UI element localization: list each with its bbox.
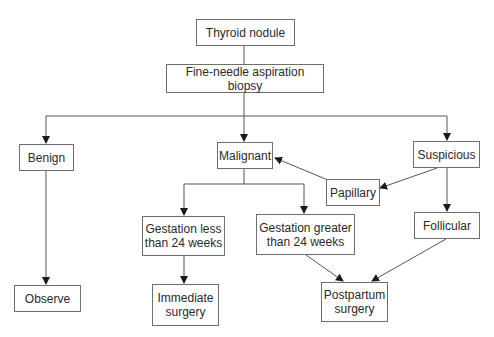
node-label: Papillary (330, 186, 376, 200)
edge-papillary-to-malignant (275, 158, 328, 180)
node-label: Malignant (219, 149, 271, 163)
node-follicular: Follicular (414, 212, 480, 239)
node-label: Gestation greater than 24 weeks (259, 221, 352, 249)
node-suspicious: Suspicious (413, 141, 480, 168)
node-label: Follicular (423, 219, 471, 233)
node-gestation-greater: Gestation greater than 24 weeks (256, 214, 355, 255)
node-label: Suspicious (417, 148, 475, 162)
node-label: Thyroid nodule (206, 26, 285, 40)
node-thyroid-nodule: Thyroid nodule (196, 19, 295, 46)
node-label: Immediate surgery (157, 291, 213, 319)
edge-gestation-greater-to-postpartum (306, 255, 343, 281)
node-observe: Observe (14, 285, 81, 312)
node-label: Fine-needle aspiration biopsy (167, 65, 323, 93)
node-postpartum-surgery: Postpartum surgery (321, 282, 388, 322)
node-papillary: Papillary (326, 179, 380, 206)
node-benign: Benign (19, 144, 74, 171)
node-label: Observe (25, 292, 70, 306)
node-label: Gestation less than 24 weeks (145, 222, 222, 250)
node-label: Benign (28, 151, 65, 165)
node-immediate-surgery: Immediate surgery (152, 284, 219, 326)
node-malignant: Malignant (217, 142, 273, 169)
node-fna-biopsy: Fine-needle aspiration biopsy (166, 64, 324, 93)
node-label: Postpartum surgery (324, 288, 385, 316)
node-gestation-less: Gestation less than 24 weeks (142, 216, 225, 256)
edge-follicular-to-postpartum (372, 239, 446, 281)
edge-suspicious-to-papillary (380, 168, 437, 188)
